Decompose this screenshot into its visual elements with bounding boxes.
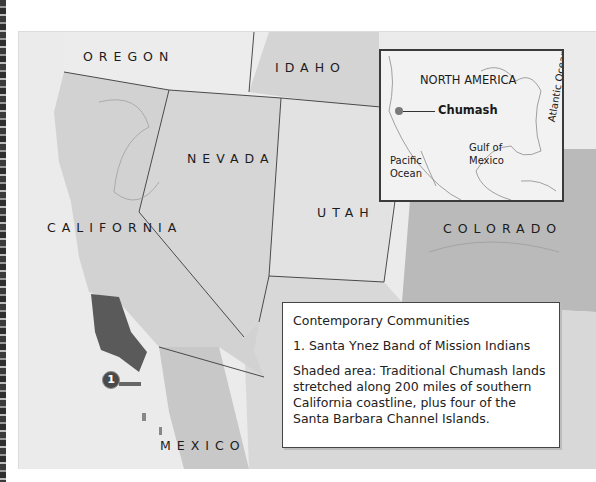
gulf-line2: Mexico <box>469 154 504 167</box>
country-label-mexico: MEXICO <box>160 438 246 453</box>
legend-item: 1. Santa Ynez Band of Mission Indians <box>293 338 551 354</box>
state-label-california: CALIFORNIA <box>47 220 182 235</box>
state-label-nevada: NEVADA <box>187 151 275 166</box>
state-label-colorado: COLORADO <box>443 221 562 236</box>
community-marker-1: 1 <box>102 371 120 389</box>
page-edge-strip <box>0 0 6 482</box>
pacific-line1: Pacific <box>390 154 422 167</box>
inset-title: NORTH AMERICA <box>420 73 516 87</box>
legend-heading: Contemporary Communities <box>293 313 551 329</box>
inset-chumash-label: Chumash <box>438 103 498 117</box>
legend-box: Contemporary Communities 1. Santa Ynez B… <box>282 302 560 448</box>
inset-gulf-label: Gulf of Mexico <box>469 141 504 167</box>
inset-map-north-america: NORTH AMERICA Chumash Pacific Ocean Gulf… <box>379 49 564 202</box>
state-label-utah: UTAH <box>317 205 375 220</box>
chumash-leader-line <box>403 111 435 112</box>
legend-note: Shaded area: Traditional Chumash lands s… <box>293 363 551 427</box>
state-label-idaho: IDAHO <box>275 60 346 75</box>
chumash-location-dot <box>395 107 403 115</box>
gulf-line1: Gulf of <box>469 141 504 154</box>
state-label-oregon: OREGON <box>83 49 174 64</box>
pacific-line2: Ocean <box>390 167 422 180</box>
regional-map: OREGON IDAHO NEVADA UTAH CALIFORNIA COLO… <box>18 31 596 469</box>
inset-pacific-label: Pacific Ocean <box>390 154 422 180</box>
